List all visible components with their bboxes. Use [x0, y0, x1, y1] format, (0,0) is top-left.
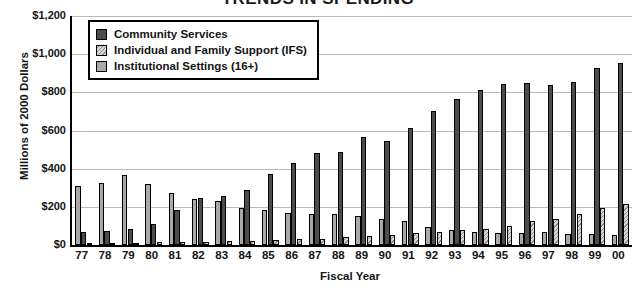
bar-ifs [437, 232, 442, 245]
bar-institutional-settings [472, 232, 477, 245]
bar-institutional-settings [425, 227, 430, 245]
bar-community-services [361, 137, 366, 245]
year-group [375, 16, 398, 245]
x-tick-label: 78 [93, 249, 116, 261]
x-tick-label: 85 [257, 249, 280, 261]
year-group [609, 16, 632, 245]
bar-ifs [483, 229, 488, 245]
bar-ifs [250, 241, 255, 245]
bar-institutional-settings [589, 234, 594, 245]
bar-institutional-settings [449, 230, 454, 245]
year-group [585, 16, 608, 245]
bar-ifs [87, 243, 92, 245]
legend-item-ifs: Individual and Family Support (IFS) [96, 42, 307, 58]
chart-title: TRENDS IN SPENDING [0, 0, 636, 9]
bar-institutional-settings [262, 210, 267, 245]
bar-community-services [151, 224, 156, 245]
bar-ifs [460, 230, 465, 245]
bar-institutional-settings [565, 234, 570, 245]
bar-institutional-settings [379, 219, 384, 245]
bar-institutional-settings [192, 199, 197, 245]
year-group [469, 16, 492, 245]
bar-ifs [227, 241, 232, 245]
bar-community-services [314, 153, 319, 245]
bar-community-services [198, 198, 203, 245]
bar-institutional-settings [309, 214, 314, 245]
bar-institutional-settings [239, 208, 244, 245]
x-tick-label: 94 [467, 249, 490, 261]
bar-community-services [571, 82, 576, 245]
y-tick-label: $600 [14, 124, 66, 136]
legend-swatch-community-services [96, 29, 107, 40]
x-tick-label: 93 [443, 249, 466, 261]
x-tick-label: 88 [327, 249, 350, 261]
x-tick-label: 84 [233, 249, 256, 261]
year-group [445, 16, 468, 245]
year-group [352, 16, 375, 245]
bar-institutional-settings [542, 232, 547, 245]
x-tick-label: 77 [70, 249, 93, 261]
bar-ifs [577, 214, 582, 245]
y-tick-label: $0 [14, 238, 66, 250]
bar-community-services [104, 231, 109, 245]
bar-ifs [600, 208, 605, 245]
bar-institutional-settings [122, 175, 127, 245]
legend-swatch-institutional-settings [96, 61, 107, 72]
bar-community-services [478, 90, 483, 245]
x-tick-label: 83 [210, 249, 233, 261]
x-tick-label: 82 [187, 249, 210, 261]
bar-community-services [454, 99, 459, 245]
legend-item-community-services: Community Services [96, 26, 307, 42]
bar-institutional-settings [75, 186, 80, 245]
y-tick-label: $800 [14, 85, 66, 97]
year-group [329, 16, 352, 245]
bar-institutional-settings [495, 233, 500, 245]
bar-institutional-settings [332, 214, 337, 245]
x-tick-label: 97 [537, 249, 560, 261]
y-tick-label: $400 [14, 162, 66, 174]
trends-in-spending-chart: TRENDS IN SPENDING Millions of 2000 Doll… [0, 0, 636, 291]
bar-ifs [413, 233, 418, 245]
bar-community-services [548, 85, 553, 245]
bar-community-services [431, 111, 436, 245]
bar-ifs [390, 235, 395, 245]
y-tick-label: $200 [14, 200, 66, 212]
bar-ifs [273, 240, 278, 245]
bar-community-services [221, 196, 226, 245]
x-tick-label: 96 [513, 249, 536, 261]
x-tick-label: 91 [397, 249, 420, 261]
bar-ifs [297, 239, 302, 245]
x-tick-label: 92 [420, 249, 443, 261]
bar-institutional-settings [145, 184, 150, 245]
y-tick-label: $1,200 [14, 9, 66, 21]
y-tick-label: $1,000 [14, 47, 66, 59]
legend-label-institutional-settings: Institutional Settings (16+) [114, 60, 258, 73]
bar-institutional-settings [285, 213, 290, 245]
bar-community-services [291, 163, 296, 245]
bar-community-services [174, 210, 179, 245]
bar-ifs [320, 239, 325, 245]
bar-institutional-settings [519, 233, 524, 245]
bar-community-services [128, 229, 133, 245]
x-tick-label: 00 [607, 249, 630, 261]
legend-label-ifs: Individual and Family Support (IFS) [114, 44, 307, 57]
bar-ifs [203, 242, 208, 245]
x-tick-label: 86 [280, 249, 303, 261]
bar-ifs [553, 219, 558, 245]
legend-label-community-services: Community Services [114, 28, 228, 41]
bar-community-services [524, 83, 529, 245]
x-axis-title: Fiscal Year [70, 270, 630, 282]
bar-community-services [408, 128, 413, 245]
x-tick-label: 95 [490, 249, 513, 261]
legend-swatch-ifs [96, 45, 107, 56]
bar-community-services [81, 232, 86, 245]
x-tick-label: 80 [140, 249, 163, 261]
year-group [539, 16, 562, 245]
x-tick-label: 89 [350, 249, 373, 261]
x-tick-label: 81 [163, 249, 186, 261]
x-tick-label: 79 [117, 249, 140, 261]
year-group [399, 16, 422, 245]
bar-ifs [367, 236, 372, 245]
bar-community-services [384, 141, 389, 245]
bar-institutional-settings [169, 193, 174, 245]
